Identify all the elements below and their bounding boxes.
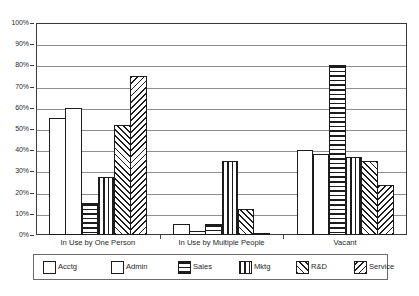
y-tick-mark [30, 150, 34, 151]
y-tick-label: 70% [15, 83, 29, 91]
x-tick-label: In Use by One Person [60, 237, 135, 248]
legend-item-label: R&D [311, 262, 327, 272]
y-tick-label: 20% [15, 189, 29, 197]
y-tick-mark [30, 87, 34, 88]
legend-item-r-d[interactable]: R&D [296, 260, 327, 274]
y-tick-mark [30, 129, 34, 130]
gridline [37, 151, 406, 152]
legend-item-label: Mktg [254, 262, 270, 272]
gridline [37, 109, 406, 110]
legend-swatch-icon [296, 261, 309, 274]
legend-item-sales[interactable]: Sales [178, 260, 212, 274]
y-tick-mark [30, 65, 34, 66]
y-tick-label: 40% [15, 146, 29, 154]
y-axis: 0%10%20%30%40%50%60%70%80%90%100% [0, 23, 34, 235]
y-tick-mark [30, 171, 34, 172]
gridline [37, 172, 406, 173]
legend-item-label: Admin [126, 262, 148, 272]
y-tick-label: 50% [15, 125, 29, 133]
y-tick-mark [30, 23, 34, 24]
gridline [37, 215, 406, 216]
y-tick-label: 10% [15, 210, 29, 218]
legend-swatch-icon [111, 261, 124, 274]
gridline [37, 45, 406, 46]
legend-item-mktg[interactable]: Mktg [239, 260, 270, 274]
y-tick-mark [30, 193, 34, 194]
legend-item-service[interactable]: Service [354, 260, 394, 274]
legend-item-label: Sales [193, 262, 212, 272]
gridline [37, 88, 406, 89]
y-tick-mark [30, 108, 34, 109]
gridline [37, 130, 406, 131]
y-tick-mark [30, 235, 34, 236]
gridline [37, 66, 406, 67]
legend-swatch-icon [354, 261, 367, 274]
y-tick-label: 100% [11, 19, 29, 27]
y-tick-label: 30% [15, 167, 29, 175]
x-tick-label: In Use by Multiple People [178, 237, 264, 248]
x-tick-label: Vacant [334, 237, 357, 248]
legend-swatch-icon [43, 261, 56, 274]
y-tick-label: 90% [15, 40, 29, 48]
y-tick-label: 60% [15, 104, 29, 112]
chart-legend: AcctgAdminSalesMktgR&DService [33, 254, 388, 280]
x-axis: In Use by One PersonIn Use by Multiple P… [36, 237, 407, 251]
legend-swatch-icon [178, 261, 191, 274]
y-tick-label: 80% [15, 61, 29, 69]
bar-chart-figure: 0%10%20%30%40%50%60%70%80%90%100% In Use… [0, 0, 419, 296]
x-tick-mark [160, 235, 161, 239]
legend-item-label: Service [369, 262, 394, 272]
y-tick-mark [30, 214, 34, 215]
y-tick-mark [30, 44, 34, 45]
plot-area [36, 23, 407, 235]
legend-item-admin[interactable]: Admin [111, 260, 148, 274]
x-tick-mark [283, 235, 284, 239]
y-tick-label: 0% [19, 231, 29, 239]
legend-swatch-icon [239, 261, 252, 274]
legend-item-label: Acctg [58, 262, 77, 272]
legend-item-acctg[interactable]: Acctg [43, 260, 77, 274]
gridline [37, 194, 406, 195]
